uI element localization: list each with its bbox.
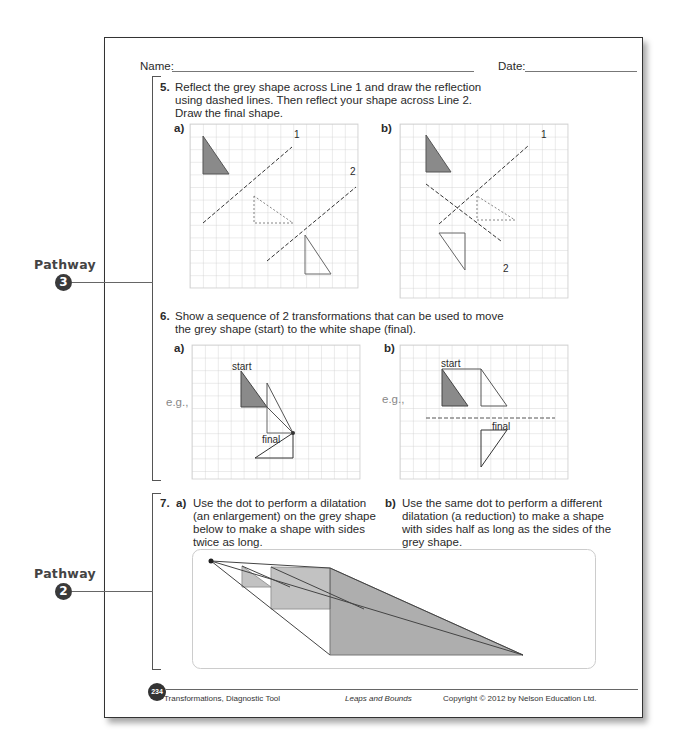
q5b-label: b) [381,121,392,135]
q6b-label: b) [384,341,395,355]
footer-rule [166,689,638,690]
name-field-line[interactable] [172,71,474,72]
pathway-2-badge: 2 [55,583,72,600]
q6a-eg: e.g., [166,395,188,409]
dilatation-center-dot [209,559,214,564]
q5a-grid[interactable] [190,124,358,288]
q6-text-2: the grey shape (start) to the white shap… [175,322,416,336]
q7b-text-3: with sides half as long as the sides of … [402,522,611,536]
pathway-3-label: Pathway [34,257,96,272]
q6b-start-label: start [441,357,460,371]
q7b-text-1: Use the same dot to perform a different [402,496,602,510]
q6-text-1: Show a sequence of 2 transformations tha… [175,309,504,323]
q6b-eg: e.g., [382,392,404,406]
q7-number: 7. [160,496,170,510]
q5a-line1-label: 1 [294,128,300,142]
q7a-text-4: twice as long. [193,535,263,549]
q7-dilatation-box[interactable] [192,549,596,669]
footer-copyright: Copyright © 2012 by Nelson Education Ltd… [443,694,597,703]
name-label: Name: [140,59,174,73]
q5-text-1: Reflect the grey shape across Line 1 and… [175,80,481,94]
pathway-3-bracket [152,76,161,481]
q6-number: 6. [160,309,170,323]
footer-left: Transformations, Diagnostic Tool [164,694,280,703]
q7a-text-1: Use the dot to perform a dilatation [193,496,366,510]
q7a-text-2: (an enlargement) on the grey shape [193,509,376,523]
q6a-start-label: start [232,360,251,374]
q7b-label: b) [385,496,396,510]
pathway-3-badge: 3 [55,274,72,291]
q5b-grid[interactable] [400,124,568,298]
q5b-line1-label: 1 [541,128,547,142]
pathway-2-bracket [152,493,161,670]
footer-center: Leaps and Bounds [345,694,412,703]
q7b-text-2: dilatation (a reduction) to make a shape [402,509,604,523]
q5a-label: a) [174,121,184,135]
date-label: Date: [498,59,526,73]
q5-text-2: using dashed lines. Then reflect your sh… [175,93,472,107]
date-field-line[interactable] [525,71,637,72]
q7a-text-3: below to make a shape with sides [193,522,365,536]
pathway-3-connector [72,282,153,283]
pathway-2-label: Pathway [34,566,96,581]
q6a-label: a) [174,341,184,355]
q5-number: 5. [160,80,170,94]
q5b-line2-label: 2 [503,262,509,276]
q6b-final-label: final [492,420,510,434]
q6b-grid[interactable] [400,345,568,479]
q6a-grid[interactable] [192,345,360,479]
pathway-2-connector [72,591,153,592]
q6a-final-label: final [262,433,280,447]
q7b-text-4: grey shape. [402,535,462,549]
q5a-line2-label: 2 [350,165,356,179]
q7a-label: a) [176,496,186,510]
q5-text-3: Draw the final shape. [175,106,283,120]
